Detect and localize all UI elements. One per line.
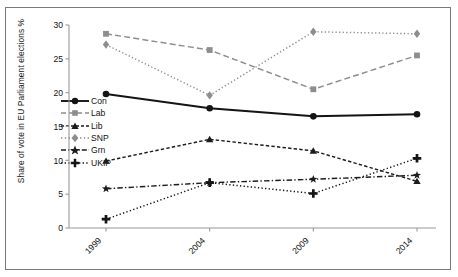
data-point-marker [414,53,420,59]
data-point-marker [207,47,213,53]
line-chart-plot: 0510152025301999200420092014 [0,0,458,277]
data-point-marker [103,31,109,37]
data-point-marker [103,40,109,48]
y-tick-label: 10 [53,156,63,166]
series-line [106,175,417,189]
y-tick-label: 20 [53,88,63,98]
y-tick-label: 15 [53,122,63,132]
data-point-marker [103,91,110,98]
y-tick-label: 30 [53,20,63,30]
series-snp [103,28,420,100]
data-point-marker [102,215,111,224]
data-point-marker [413,154,422,163]
data-point-marker [414,111,421,118]
series-lab [103,31,420,92]
data-point-marker [206,105,213,112]
data-point-marker [310,28,316,36]
data-point-marker [309,189,318,198]
y-tick-label: 0 [58,223,63,233]
y-tick-label: 5 [58,189,63,199]
series-line [106,94,417,116]
series-grn [102,171,421,192]
data-point-marker [310,86,316,92]
x-tick-label: 1999 [83,235,104,256]
series-con [103,91,421,120]
series-lib [102,136,420,184]
data-point-marker [309,175,317,183]
y-tick-label: 25 [53,54,63,64]
x-tick-label: 2014 [394,235,415,256]
series-line [106,139,417,181]
data-point-marker [413,171,421,179]
series-line [106,34,417,89]
x-tick-label: 2009 [290,235,311,256]
data-point-marker [414,30,420,38]
series-ukip [102,154,422,224]
data-point-marker [206,91,212,99]
data-point-marker [102,184,110,192]
data-point-marker [310,113,317,120]
x-tick-label: 2004 [186,235,207,256]
data-point-marker [205,178,214,187]
